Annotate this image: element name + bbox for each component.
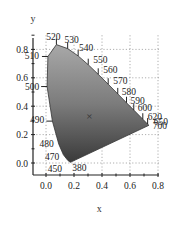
wavelength-label: 700 [153,121,168,131]
wavelength-label: 380 [72,163,87,173]
y-axis-label: y [31,13,36,24]
y-tick-label: 0.4 [16,102,28,112]
wavelength-label: 560 [103,65,118,75]
x-tick-label: 0.2 [68,181,80,191]
x-tick-label: 0.8 [152,181,164,191]
wavelength-label: 530 [65,35,80,45]
white-point-marker: × [86,110,92,122]
x-tick-label: 0.4 [96,181,108,191]
wavelength-label: 510 [25,51,40,61]
wavelength-label: 450 [48,164,63,174]
x-tick-label: 0.6 [124,181,136,191]
x-axis-label: x [97,203,102,214]
y-tick-label: 0.2 [16,130,28,140]
wavelength-label: 490 [30,115,45,125]
x-tick-label: 0.0 [40,181,52,191]
y-tick-label: 0.0 [16,159,28,169]
chromaticity-diagram: 0.00.20.40.60.80.00.20.40.60.8 380450470… [0,0,176,225]
wavelength-label: 500 [25,82,40,92]
wavelength-label: 520 [46,32,61,42]
wavelength-label: 470 [45,152,60,162]
wavelength-label: 480 [40,139,55,149]
wavelength-label: 570 [113,76,128,86]
wavelength-label: 550 [93,55,108,65]
wavelength-label: 540 [79,43,94,53]
